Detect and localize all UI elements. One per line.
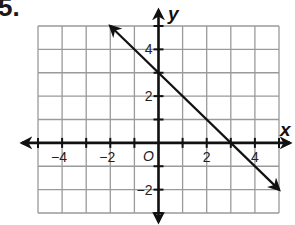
coordinate-plane: −4−22442−2 x y O (0, 0, 295, 225)
y-axis-label: y (167, 3, 180, 24)
y-tick-label: −2 (137, 182, 153, 198)
x-tick-label: −4 (51, 149, 67, 165)
x-axis-label: x (279, 119, 292, 140)
origin-label: O (143, 148, 154, 164)
line-y-equals-negative-x-plus-3 (110, 26, 279, 190)
y-tick-label: 2 (145, 88, 153, 104)
plotted-line (110, 26, 279, 190)
x-tick-label: 2 (203, 149, 211, 165)
y-tick-label: 4 (145, 41, 153, 57)
x-tick-label: −2 (99, 149, 115, 165)
